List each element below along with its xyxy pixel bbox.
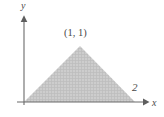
x-intercept-label: 2 — [132, 82, 138, 93]
y-axis-arrow-icon — [21, 15, 28, 22]
x-axis-arrow-icon — [143, 99, 150, 106]
x-axis-label: x — [152, 98, 156, 108]
figure-canvas — [0, 0, 164, 117]
math-figure: y x (1, 1) 2 — [0, 0, 164, 117]
y-axis-label: y — [21, 1, 25, 11]
apex-point-label: (1, 1) — [64, 28, 87, 39]
shaded-triangular-region — [24, 46, 135, 102]
